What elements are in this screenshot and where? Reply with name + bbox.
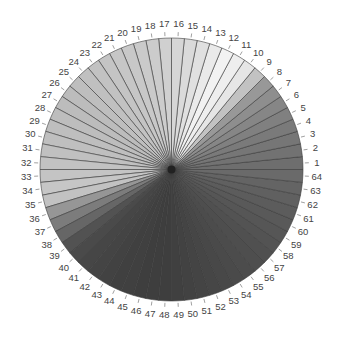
pie-label: 21 — [104, 32, 115, 43]
pie-label: 5 — [300, 102, 305, 113]
pie-label: 56 — [264, 272, 275, 283]
pie-label: 42 — [80, 281, 91, 292]
pie-label: 32 — [21, 157, 32, 168]
pie-label: 64 — [312, 171, 323, 182]
pie-label: 53 — [228, 295, 239, 306]
pie-label: 1 — [314, 157, 319, 168]
pie-tick — [101, 52, 103, 55]
pie-tick — [113, 290, 115, 294]
pie-label: 8 — [277, 66, 282, 77]
pie-tick — [151, 33, 152, 37]
pie-tick — [70, 77, 73, 80]
pie-label: 60 — [298, 226, 309, 237]
pie-label: 34 — [22, 185, 33, 196]
pie-tick — [42, 123, 46, 124]
pie-label: 61 — [303, 213, 314, 224]
pie-tick — [251, 277, 253, 280]
pie-tick — [191, 33, 192, 37]
pie-label: 45 — [117, 301, 128, 312]
pie-label: 58 — [283, 250, 294, 261]
pie-tick — [61, 88, 64, 90]
pie-tick — [54, 99, 57, 101]
pie-tick — [47, 227, 51, 229]
pie-label: 39 — [49, 250, 60, 261]
pie-tick — [216, 295, 217, 299]
pie-label: 20 — [117, 27, 128, 38]
pie-tick — [61, 249, 64, 251]
pie-tick — [38, 202, 42, 203]
pie-tick — [204, 36, 205, 40]
pie-tick — [292, 111, 296, 113]
pie-label: 46 — [131, 305, 142, 316]
pie-tick — [151, 302, 152, 306]
pie-tick — [35, 149, 39, 150]
pie-label: 24 — [69, 56, 80, 67]
pie-tick — [301, 202, 305, 203]
pie-label: 13 — [215, 27, 226, 38]
pie-tick — [38, 136, 42, 137]
pie-label: 3 — [310, 128, 315, 139]
pie-label: 40 — [58, 262, 69, 273]
pie-label: 15 — [188, 20, 199, 31]
pie-tick — [47, 111, 51, 113]
pie-tick — [301, 136, 305, 137]
pie-label: 14 — [202, 23, 213, 34]
pie-label: 27 — [41, 89, 52, 100]
pie-label: 52 — [215, 301, 226, 312]
pie-label: 59 — [291, 239, 302, 250]
pie-tick — [229, 290, 231, 294]
pie-tick — [297, 123, 301, 124]
pie-label: 41 — [69, 272, 80, 283]
pie-tick — [286, 99, 289, 101]
pie-label: 10 — [253, 47, 264, 58]
pie-label: 26 — [49, 77, 60, 88]
pie-tick — [304, 149, 308, 150]
pie-tick — [101, 284, 103, 287]
pie-center-hub — [168, 166, 176, 174]
pie-label: 11 — [241, 39, 251, 50]
pie-tick — [79, 68, 82, 71]
pie-label: 6 — [294, 89, 299, 100]
pie-label: 31 — [22, 142, 33, 153]
pie-label: 30 — [25, 128, 36, 139]
pie-label: 16 — [173, 18, 184, 29]
pie-label: 55 — [253, 281, 264, 292]
pie-label: 4 — [306, 115, 311, 126]
pie-tick — [138, 36, 139, 40]
pie-label: 18 — [145, 20, 156, 31]
pie-label: 28 — [35, 102, 46, 113]
pie-label: 9 — [267, 56, 272, 67]
pie-tick — [138, 299, 139, 303]
pie-tick — [261, 68, 264, 71]
pie-label: 48 — [159, 309, 170, 320]
pie-tick — [251, 59, 253, 62]
pie-tick — [42, 214, 46, 215]
pie-label: 17 — [159, 18, 170, 29]
pie-tick — [286, 238, 289, 240]
pie-tick — [54, 238, 57, 240]
pie-label: 37 — [35, 226, 46, 237]
pie-label: 49 — [173, 309, 184, 320]
pie-label: 47 — [145, 308, 156, 319]
pie-label: 57 — [274, 262, 285, 273]
pie-label: 36 — [29, 213, 40, 224]
pie-tick — [113, 45, 115, 49]
pie-tick — [191, 302, 192, 306]
pie-label: 38 — [41, 239, 52, 250]
pie-tick — [90, 277, 92, 280]
pie-label: 50 — [188, 308, 199, 319]
pie-label: 25 — [58, 66, 69, 77]
pie-label: 2 — [313, 142, 318, 153]
pie-label: 22 — [91, 39, 102, 50]
pie-chart: 1234567891011121314151617181920212223242… — [0, 0, 340, 345]
pie-tick — [279, 88, 282, 90]
pie-label: 43 — [91, 289, 102, 300]
pie-tick — [35, 189, 39, 190]
pie-tick — [270, 77, 273, 80]
pie-tick — [240, 284, 242, 287]
pie-label: 12 — [228, 32, 239, 43]
pie-tick — [90, 59, 92, 62]
pie-label: 23 — [80, 47, 91, 58]
pie-label: 33 — [21, 171, 32, 182]
pie-tick — [125, 40, 126, 44]
